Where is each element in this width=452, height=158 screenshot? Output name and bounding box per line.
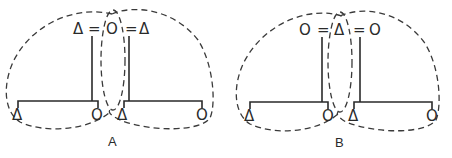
right-sibling-bar — [124, 101, 202, 108]
equals-sign-2: = — [353, 21, 366, 39]
diagram-b: O = Δ = O Δ O Δ O B — [236, 11, 439, 150]
equals-sign-1: = — [317, 21, 330, 39]
child-symbol: Δ — [244, 107, 255, 125]
top-symbol-2: Δ — [334, 21, 345, 39]
kinship-figure: Δ = O = Δ Δ O Δ O A O = Δ = O Δ O Δ O B — [0, 0, 452, 158]
top-symbol-1: Δ — [73, 20, 84, 38]
diagram-label-a: A — [108, 134, 117, 149]
equals-sign-2: = — [125, 20, 138, 38]
left-sibling-bar — [18, 101, 98, 108]
left-sibling-bar — [250, 102, 328, 109]
child-symbol: O — [426, 107, 438, 125]
child-symbol: Δ — [348, 107, 359, 125]
right-sibling-bar — [354, 102, 432, 109]
child-symbol: Δ — [12, 106, 23, 124]
child-symbol: Δ — [117, 106, 128, 124]
child-symbol: O — [196, 106, 208, 124]
top-symbol-2: O — [106, 20, 118, 38]
equals-sign-1: = — [88, 20, 101, 38]
top-symbol-1: O — [299, 21, 311, 39]
top-symbol-3: O — [369, 21, 381, 39]
diagram-a: Δ = O = Δ Δ O Δ O A — [6, 10, 213, 149]
child-symbol: O — [91, 106, 103, 124]
diagram-label-b: B — [335, 135, 344, 150]
child-symbol: O — [322, 107, 334, 125]
top-symbol-3: Δ — [139, 20, 150, 38]
